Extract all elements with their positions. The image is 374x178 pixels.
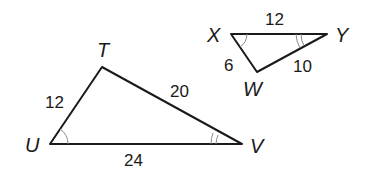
vertex-label-y: Y	[335, 24, 350, 46]
side-label-xw: 6	[224, 56, 233, 75]
side-label-wy: 10	[293, 57, 312, 76]
angle-v-double-arc-mark-inner	[216, 135, 218, 144]
angle-v-double-arc-mark-outer	[211, 133, 213, 144]
vertex-label-v: V	[250, 135, 265, 157]
side-label-tv: 20	[170, 82, 189, 101]
triangle-tuv-outline	[50, 67, 242, 144]
angle-y-double-arc-mark-inner	[301, 34, 304, 46]
triangle-xyw-outline	[231, 34, 327, 72]
triangle-xyw: X Y W 12 6 10	[206, 10, 350, 100]
vertex-label-u: U	[25, 134, 40, 156]
vertex-label-t: T	[97, 39, 111, 61]
vertex-label-w: W	[243, 78, 264, 100]
similar-triangles-diagram: T U V 12 20 24 X Y W 12 6 10	[0, 0, 374, 178]
side-label-uv: 24	[124, 151, 143, 170]
angle-u-single-arc-mark	[60, 129, 68, 144]
angle-y-double-arc-mark-outer	[296, 34, 300, 48]
vertex-label-x: X	[206, 24, 221, 46]
side-label-xy: 12	[265, 10, 284, 29]
angle-x-single-arc-mark	[240, 34, 247, 47]
side-label-tu: 12	[45, 93, 64, 112]
